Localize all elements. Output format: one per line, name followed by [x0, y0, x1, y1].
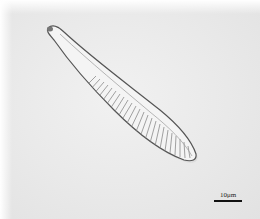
diatom-specimen: [0, 0, 260, 219]
scale-bar-line: [214, 200, 242, 202]
scale-bar-label: 10μm: [214, 191, 242, 199]
scale-bar: 10μm: [214, 191, 242, 202]
micrograph: 10μm: [0, 0, 260, 219]
